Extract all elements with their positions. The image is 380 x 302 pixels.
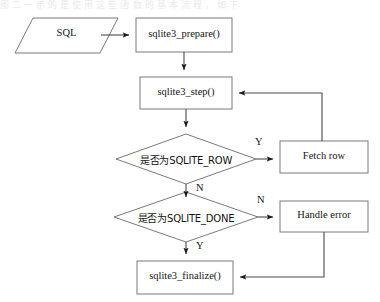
edge-label-row-yes: Y xyxy=(255,136,263,147)
node-finalize-shape xyxy=(137,261,233,294)
edge-label-done-yes: Y xyxy=(196,240,204,251)
edge-fetch-row-loop-to-step xyxy=(239,93,322,141)
edge-label-row-no: N xyxy=(196,182,204,193)
node-fetch-row-shape xyxy=(280,141,368,173)
node-decision-row-shape xyxy=(116,134,256,184)
edge-handle-error-to-finalize xyxy=(240,232,324,277)
flowchart-graphics xyxy=(0,0,380,302)
node-prepare-shape xyxy=(136,18,232,52)
node-handle-error-shape xyxy=(280,201,368,232)
flowchart-canvas: 图 二 一 示 的 是 使 用 这 些 函 数 的 基 本 流 程 ， 如 下 xyxy=(0,0,380,302)
edge-label-done-no: N xyxy=(257,194,265,205)
node-decision-done-shape xyxy=(114,192,258,242)
node-step-shape xyxy=(140,77,232,109)
